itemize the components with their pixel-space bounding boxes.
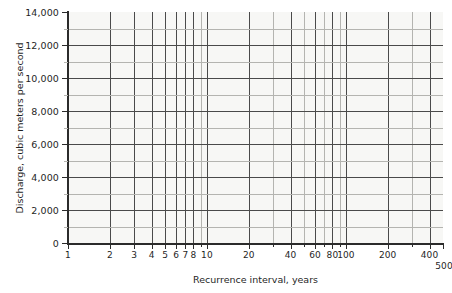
x-tick-label: 6 (173, 250, 179, 260)
y-minor-tick-mark (64, 161, 68, 162)
x-tick-label: 5 (162, 250, 168, 260)
x-tick-mark (185, 244, 186, 249)
x-tick-label: 4 (149, 250, 155, 260)
x-gridline (430, 12, 431, 243)
x-gridline (273, 12, 274, 243)
x-gridline (176, 12, 177, 243)
x-tick-mark (443, 244, 444, 249)
y-gridline (68, 62, 443, 63)
y-minor-tick-mark (64, 29, 68, 30)
x-tick-mark (332, 244, 333, 249)
y-tick-label: 2,000 (31, 205, 59, 216)
y-gridline (68, 227, 443, 228)
y-tick-mark (62, 78, 68, 79)
y-gridline (68, 78, 443, 79)
x-tick-mark (340, 244, 341, 247)
x-tick-mark (273, 244, 274, 247)
y-axis-title: Discharge, cubic meters per second (14, 42, 25, 213)
y-gridline (68, 144, 443, 145)
plot-area (68, 12, 443, 243)
x-gridline (165, 12, 166, 243)
x-gridline (388, 12, 389, 243)
x-gridline (304, 12, 305, 243)
y-minor-tick-mark (64, 194, 68, 195)
x-axis-title: Recurrence interval, years (193, 274, 318, 285)
y-tick-label: 6,000 (31, 139, 59, 150)
y-minor-tick-mark (64, 227, 68, 228)
y-tick-label: 12,000 (25, 40, 59, 51)
y-tick-mark (62, 111, 68, 112)
x-tick-label: 100 (337, 250, 354, 260)
x-tick-mark (152, 244, 153, 249)
x-tick-label: 10 (201, 250, 213, 260)
y-tick-mark (62, 12, 68, 13)
y-gridline (68, 45, 443, 46)
x-gridline (207, 12, 208, 243)
x-gridline (412, 12, 413, 243)
y-gridline (68, 161, 443, 162)
x-gridline (324, 12, 325, 243)
x-tick-label: 20 (243, 250, 255, 260)
x-gridline (185, 12, 186, 243)
x-tick-label: 3 (131, 250, 137, 260)
x-gridline (134, 12, 135, 243)
x-tick-mark (412, 244, 413, 247)
x-tick-label: 200 (379, 250, 396, 260)
y-gridline (68, 128, 443, 129)
x-tick-mark (304, 244, 305, 247)
x-gridline (340, 12, 341, 243)
x-gridline (249, 12, 250, 243)
y-gridline (68, 177, 443, 178)
x-tick-label: 1 (65, 250, 71, 260)
x-tick-mark (324, 244, 325, 247)
y-tick-mark (62, 210, 68, 211)
x-gridline (346, 12, 347, 243)
y-tick-mark (62, 144, 68, 145)
x-tick-mark (291, 244, 292, 249)
x-tick-mark (388, 244, 389, 249)
x-tick-label: 400 (421, 250, 438, 260)
y-tick-label: 0 (53, 238, 59, 249)
y-tick-label: 10,000 (25, 73, 59, 84)
x-tick-mark (176, 244, 177, 249)
x-gridline (315, 12, 316, 243)
x-tick-mark (193, 244, 194, 249)
x-gridline (193, 12, 194, 243)
y-gridline (68, 95, 443, 96)
x-tick-mark (346, 244, 347, 249)
y-gridline (68, 194, 443, 195)
y-tick-label: 8,000 (31, 106, 59, 117)
x-tick-mark (165, 244, 166, 249)
y-minor-tick-mark (64, 62, 68, 63)
y-tick-mark (62, 177, 68, 178)
y-tick-label: 14,000 (25, 7, 59, 18)
y-gridline (68, 210, 443, 211)
x-tick-mark (68, 244, 69, 249)
y-gridline (68, 111, 443, 112)
chart-figure: 12345678102040608010020040050002,0004,00… (0, 0, 452, 293)
y-minor-tick-mark (64, 95, 68, 96)
x-tick-mark (201, 244, 202, 247)
x-tick-mark (249, 244, 250, 249)
x-tick-label: 2 (107, 250, 113, 260)
x-tick-label: 8 (191, 250, 197, 260)
y-minor-tick-mark (64, 128, 68, 129)
x-tick-mark (315, 244, 316, 249)
x-tick-label: 60 (309, 250, 321, 260)
x-gridline (332, 12, 333, 243)
x-tick-mark (430, 244, 431, 249)
x-gridline (110, 12, 111, 243)
x-gridline (291, 12, 292, 243)
x-tick-label: 40 (285, 250, 297, 260)
x-tick-mark (134, 244, 135, 249)
y-tick-mark (62, 243, 68, 244)
x-tick-label: 7 (182, 250, 188, 260)
x-tick-mark (110, 244, 111, 249)
y-tick-label: 4,000 (31, 172, 59, 183)
x-gridline (152, 12, 153, 243)
y-gridline (68, 29, 443, 30)
x-gridline (201, 12, 202, 243)
y-tick-mark (62, 45, 68, 46)
x-tick-mark (207, 244, 208, 249)
x-tick-label: 500 (435, 261, 452, 271)
